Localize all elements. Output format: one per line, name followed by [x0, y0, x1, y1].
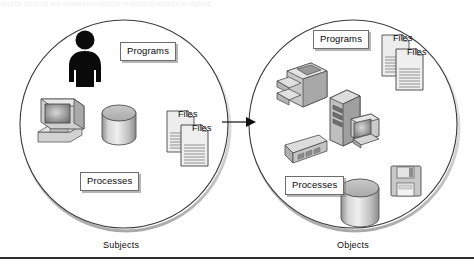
plate-subjects-processes: Processes — [80, 172, 139, 191]
database-cylinder-icon — [341, 179, 379, 227]
caption-subjects: Subjects — [103, 240, 139, 250]
diagram-canvas: access controls are applied to subjects … — [0, 0, 474, 268]
plate-objects-programs: Programs — [313, 30, 369, 49]
files-label-objects-front: Files — [403, 47, 431, 59]
files-label-subjects-back: Files — [174, 109, 202, 121]
files-label-subjects-front: Files — [188, 123, 216, 135]
plate-objects-processes: Processes — [285, 176, 344, 195]
database-cylinder-icon — [102, 105, 136, 145]
plate-subjects-programs: Programs — [120, 42, 176, 61]
caption-objects: Objects — [337, 240, 369, 250]
computer-icon — [38, 99, 84, 142]
floppy-disk-icon — [391, 166, 421, 196]
files-label-objects-back: Files — [389, 33, 417, 45]
footer-rule — [0, 257, 474, 259]
